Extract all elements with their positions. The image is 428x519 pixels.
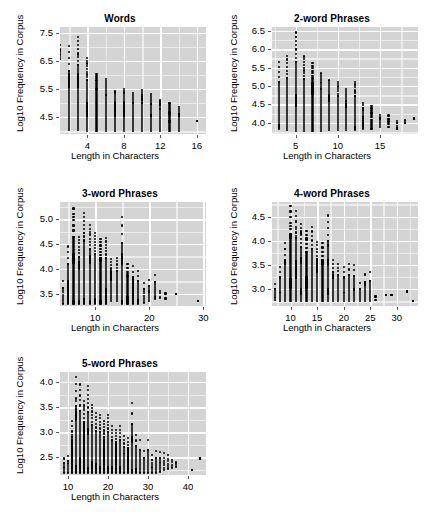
data-point [83, 271, 85, 273]
data-point [107, 461, 109, 463]
data-point [311, 94, 313, 96]
data-point [300, 285, 302, 287]
data-point [71, 439, 73, 441]
data-point [311, 82, 313, 84]
data-point [327, 256, 329, 258]
data-point [343, 279, 345, 281]
data-point [295, 272, 297, 274]
data-point [135, 451, 137, 453]
data-point [105, 94, 107, 96]
data-point [168, 121, 170, 123]
data-point [343, 281, 345, 283]
data-point [132, 130, 134, 132]
data-point [300, 257, 302, 259]
data-point [362, 119, 364, 121]
data-point [168, 119, 170, 121]
data-point [95, 130, 97, 132]
data-point [121, 281, 123, 283]
x-tick-label: 15 [365, 140, 395, 151]
x-tick-label: 10 [323, 140, 353, 151]
data-point [123, 91, 125, 93]
data-point [87, 434, 89, 436]
data-point [86, 116, 88, 118]
data-point [105, 290, 107, 292]
data-point-outlier [123, 435, 125, 437]
data-point [131, 460, 133, 462]
data-point [311, 124, 313, 126]
y-tick-mark [268, 123, 271, 124]
data-point [77, 91, 79, 93]
data-point [353, 294, 355, 296]
data-point [114, 101, 116, 103]
data-point [83, 235, 85, 237]
data-point-outlier [364, 273, 366, 275]
data-point [305, 251, 307, 253]
data-point [337, 290, 339, 292]
data-point [121, 295, 123, 297]
data-point [289, 253, 291, 255]
data-point [143, 457, 145, 459]
data-point [132, 96, 134, 98]
data-point [295, 40, 297, 42]
data-point [139, 449, 141, 451]
data-point [159, 106, 161, 108]
data-point [295, 260, 297, 262]
data-point [286, 105, 288, 107]
data-point [171, 464, 173, 466]
data-point [72, 293, 74, 295]
data-point [127, 465, 129, 467]
data-point [135, 467, 137, 469]
data-point [143, 292, 145, 294]
data-point [72, 236, 74, 238]
data-point [123, 110, 125, 112]
data-point [150, 99, 152, 101]
data-point [321, 276, 323, 278]
data-point [62, 287, 64, 289]
data-point [87, 458, 89, 460]
data-point [311, 252, 313, 254]
data-point [114, 118, 116, 120]
data-point [328, 123, 330, 125]
data-point [387, 118, 389, 120]
data-point [311, 260, 313, 262]
data-point [328, 84, 330, 86]
data-point [295, 98, 297, 100]
data-point-outlier [387, 114, 389, 116]
data-point [137, 275, 139, 277]
data-point [87, 444, 89, 446]
data-point [305, 273, 307, 275]
data-point [362, 109, 364, 111]
data-point [67, 251, 69, 253]
data-point [305, 275, 307, 277]
data-point [78, 281, 80, 283]
data-point [343, 283, 345, 285]
data-point [78, 297, 80, 299]
data-point [327, 250, 329, 252]
data-point [87, 440, 89, 442]
y-axis-label: Log10 Frequency in Corpus [14, 15, 25, 132]
data-point [95, 444, 97, 446]
data-point [321, 270, 323, 272]
data-point [83, 263, 85, 265]
data-point [132, 302, 134, 304]
y-tick-mark [268, 241, 271, 242]
data-point-outlier [121, 216, 123, 218]
data-point [316, 274, 318, 276]
data-point [105, 102, 107, 104]
data-point [123, 442, 125, 444]
data-point [83, 417, 85, 419]
gridline-vertical-minor [179, 27, 180, 134]
data-point [103, 465, 105, 467]
data-point [132, 106, 134, 108]
data-point-outlier [111, 425, 113, 427]
data-point-outlier [164, 292, 166, 294]
data-point [328, 107, 330, 109]
data-point [148, 291, 150, 293]
data-point [94, 253, 96, 255]
data-point [327, 300, 329, 302]
data-point [139, 465, 141, 467]
data-point [284, 280, 286, 282]
gridline-horizontal [60, 33, 206, 34]
data-point [159, 110, 161, 112]
data-point [305, 261, 307, 263]
